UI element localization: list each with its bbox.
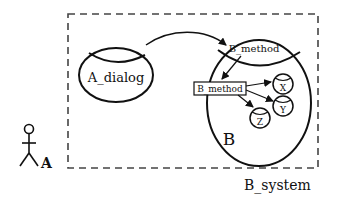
subcomponent-z-label: Z — [257, 117, 263, 127]
system-boundary-label: B_system — [244, 177, 311, 194]
subcomponent-y-label: Y — [279, 105, 287, 115]
diagram-canvas: A_dialog B_method B_method X Y Z B — [0, 0, 338, 199]
b-method-box-label: B_method — [197, 84, 243, 95]
arrow-to-x-icon — [246, 82, 271, 86]
actor-label: A — [40, 155, 53, 171]
subcomponent-x-label: X — [280, 83, 287, 93]
a-dialog-label: A_dialog — [87, 70, 144, 85]
arrow-to-z-icon — [238, 95, 253, 107]
b-interface-label: B_method — [229, 43, 280, 55]
actor-icon — [20, 125, 38, 167]
b-component-label: B — [223, 129, 236, 149]
arrow-to-y-icon — [246, 90, 273, 101]
call-arrow-icon — [146, 32, 226, 45]
